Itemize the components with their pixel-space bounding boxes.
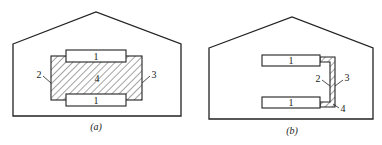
caption-b: (b) (286, 125, 298, 137)
label-unit-top: 1 (289, 55, 294, 66)
panel-b: 1 1 2 3 4 (b) (209, 17, 373, 137)
leader-right (142, 76, 150, 83)
label-unit-bottom: 1 (94, 95, 99, 106)
leader-inner (322, 80, 330, 86)
panel-a: 1 1 4 2 3 (a) (13, 12, 181, 133)
label-unit-bottom: 1 (289, 97, 294, 108)
leader-left (43, 76, 51, 83)
label-left-boundary: 2 (37, 69, 42, 80)
label-hatched-region: 4 (341, 103, 346, 114)
label-outer-boundary: 3 (345, 72, 350, 83)
label-right-boundary: 3 (152, 69, 157, 80)
hatched-region (320, 57, 335, 107)
caption-a: (a) (90, 121, 102, 133)
label-inner-boundary: 2 (316, 73, 321, 84)
label-hatched-region: 4 (95, 73, 100, 84)
leader-outer (335, 80, 343, 86)
diagram-canvas: 1 1 4 2 3 (a) 1 1 2 3 4 (b) (0, 0, 382, 145)
label-unit-top: 1 (94, 51, 99, 62)
